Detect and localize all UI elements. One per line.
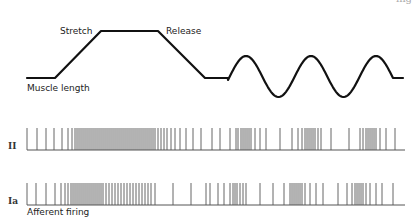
spike-train-Ia [27,183,405,205]
muscle-length-label: Muscle length [27,83,90,93]
cropped-header-text: ing [396,0,412,4]
spike-train-II [27,128,405,150]
muscle-spindle-figure: ing Stretch Release Muscle length II Ia … [0,0,416,222]
stretch-label: Stretch [60,26,92,36]
row-label-II: II [8,141,16,151]
row-label-Ia: Ia [8,196,18,206]
afferent-firing-label: Afferent firing [27,207,89,217]
release-label: Release [166,26,201,36]
